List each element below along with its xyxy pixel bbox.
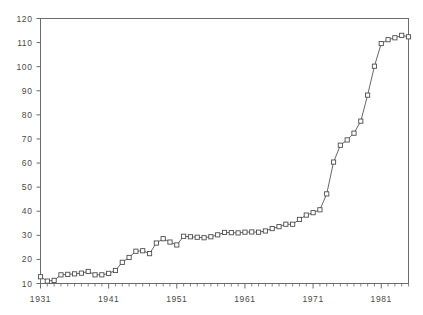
data-point-marker bbox=[72, 272, 76, 276]
data-point-marker bbox=[216, 233, 220, 237]
data-point-marker bbox=[338, 143, 342, 147]
y-tick-label: 40 bbox=[22, 206, 33, 216]
x-axis-ticks: 193119411951196119711981 bbox=[30, 284, 409, 304]
chart-container: 102030405060708090100110120 193119411951… bbox=[0, 0, 423, 315]
x-tick-label: 1941 bbox=[98, 294, 119, 304]
data-point-marker bbox=[229, 231, 233, 235]
data-point-marker bbox=[141, 249, 145, 253]
data-point-marker bbox=[127, 255, 131, 259]
data-point-marker bbox=[256, 230, 260, 234]
data-point-marker bbox=[86, 269, 90, 273]
data-point-marker bbox=[202, 236, 206, 240]
data-point-marker bbox=[222, 230, 226, 234]
data-point-marker bbox=[270, 226, 274, 230]
data-point-marker bbox=[400, 33, 404, 37]
data-point-marker bbox=[297, 217, 301, 221]
y-tick-label: 70 bbox=[22, 134, 33, 144]
y-axis-ticks: 102030405060708090100110120 bbox=[17, 14, 41, 289]
y-tick-label: 100 bbox=[17, 62, 33, 72]
y-tick-label: 90 bbox=[22, 86, 33, 96]
data-point-marker bbox=[372, 64, 376, 68]
data-point-marker bbox=[406, 35, 410, 39]
data-point-marker bbox=[113, 268, 117, 272]
data-point-marker bbox=[154, 241, 158, 245]
y-tick-label: 50 bbox=[22, 182, 33, 192]
data-point-marker bbox=[379, 41, 383, 45]
data-point-marker bbox=[134, 249, 138, 253]
data-point-marker bbox=[393, 36, 397, 40]
data-point-marker bbox=[345, 138, 349, 142]
data-point-marker bbox=[304, 213, 308, 217]
series-markers-1 bbox=[38, 33, 410, 283]
data-point-marker bbox=[284, 222, 288, 226]
y-tick-label: 20 bbox=[22, 254, 33, 264]
data-point-marker bbox=[100, 273, 104, 277]
data-point-marker bbox=[188, 235, 192, 239]
data-point-marker bbox=[325, 192, 329, 196]
x-tick-label: 1981 bbox=[371, 294, 392, 304]
x-tick-label: 1971 bbox=[302, 294, 323, 304]
x-tick-label: 1931 bbox=[30, 294, 51, 304]
y-tick-label: 10 bbox=[22, 279, 33, 289]
data-point-marker bbox=[161, 237, 165, 241]
x-tick-label: 1951 bbox=[166, 294, 187, 304]
data-point-marker bbox=[38, 275, 42, 279]
data-point-marker bbox=[352, 131, 356, 135]
y-tick-label: 80 bbox=[22, 110, 33, 120]
data-point-marker bbox=[59, 273, 63, 277]
data-point-marker bbox=[168, 240, 172, 244]
line-chart: 102030405060708090100110120 193119411951… bbox=[0, 0, 423, 315]
data-point-marker bbox=[359, 119, 363, 123]
data-point-marker bbox=[291, 222, 295, 226]
data-point-marker bbox=[120, 260, 124, 264]
data-point-marker bbox=[263, 229, 267, 233]
data-point-marker bbox=[386, 38, 390, 42]
data-point-marker bbox=[79, 271, 83, 275]
y-tick-label: 30 bbox=[22, 230, 33, 240]
data-point-marker bbox=[45, 279, 49, 283]
series-line-1 bbox=[41, 35, 409, 281]
data-point-marker bbox=[250, 230, 254, 234]
data-point-marker bbox=[175, 243, 179, 247]
data-point-marker bbox=[318, 208, 322, 212]
data-point-marker bbox=[66, 272, 70, 276]
data-point-marker bbox=[331, 160, 335, 164]
data-point-marker bbox=[52, 278, 56, 282]
data-point-marker bbox=[93, 273, 97, 277]
y-tick-label: 60 bbox=[22, 158, 33, 168]
data-point-marker bbox=[243, 230, 247, 234]
y-tick-label: 110 bbox=[17, 38, 32, 48]
data-point-marker bbox=[311, 211, 315, 215]
data-point-marker bbox=[277, 225, 281, 229]
x-tick-label: 1961 bbox=[234, 294, 255, 304]
data-point-marker bbox=[182, 234, 186, 238]
data-point-marker bbox=[107, 271, 111, 275]
data-point-marker bbox=[209, 235, 213, 239]
y-tick-label: 120 bbox=[17, 14, 33, 24]
data-point-marker bbox=[236, 231, 240, 235]
data-point-marker bbox=[366, 93, 370, 97]
data-point-marker bbox=[195, 235, 199, 239]
data-point-marker bbox=[147, 252, 151, 256]
plot-frame bbox=[41, 19, 409, 284]
